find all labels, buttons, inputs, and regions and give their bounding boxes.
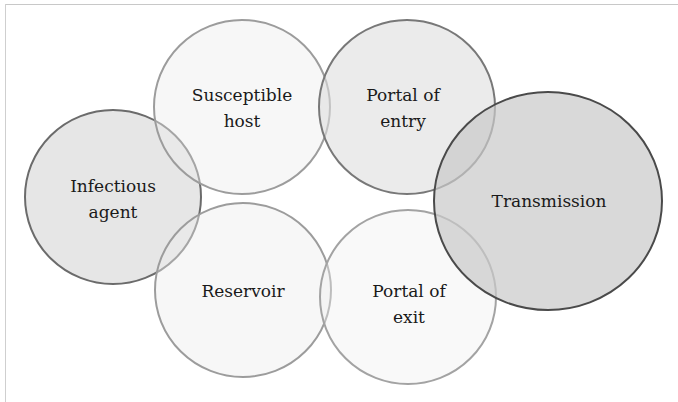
label-line: agent: [89, 202, 138, 222]
label-transmission: Transmission: [492, 191, 607, 211]
label-line: host: [224, 111, 261, 131]
label-line: exit: [393, 307, 425, 327]
diagram-frame: Infectious agent Susceptible host Portal…: [0, 0, 678, 402]
label-line: Portal of: [372, 281, 447, 301]
label-line: Susceptible: [192, 85, 292, 105]
label-line: Infectious: [70, 176, 156, 196]
label-line: entry: [380, 111, 426, 131]
label-line: Reservoir: [201, 281, 285, 301]
chain-of-infection-diagram: Infectious agent Susceptible host Portal…: [0, 0, 678, 402]
label-reservoir: Reservoir: [201, 281, 285, 301]
circle-susceptible-host: [154, 20, 330, 194]
label-line: Portal of: [366, 85, 441, 105]
label-line: Transmission: [492, 191, 607, 211]
